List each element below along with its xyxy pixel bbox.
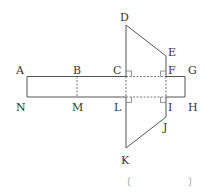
label-C: C <box>113 64 121 77</box>
label-E: E <box>168 46 176 59</box>
right-angle-mark-F <box>161 71 167 77</box>
lower-trapezoid <box>126 97 166 148</box>
right-angle-mark-C <box>126 71 132 77</box>
upper-trapezoid <box>126 25 166 77</box>
label-A: A <box>15 64 25 77</box>
label-J: J <box>162 121 167 134</box>
answer-bracket-open: 〔 <box>121 177 131 188</box>
prism-net-diagram: A B C D E F G H I J K L M N 〔 〕 <box>0 0 205 192</box>
label-I: I <box>168 101 172 114</box>
label-H: H <box>188 101 198 114</box>
strip-right-segment-F-G-H-I <box>166 77 185 98</box>
label-K: K <box>121 154 130 167</box>
right-angle-mark-L <box>126 97 132 103</box>
label-L: L <box>114 101 122 114</box>
label-N: N <box>16 101 26 114</box>
label-G: G <box>188 64 197 77</box>
label-D: D <box>120 11 129 24</box>
label-B: B <box>73 64 81 77</box>
label-F: F <box>168 64 176 77</box>
label-M: M <box>72 101 83 114</box>
right-angle-mark-I <box>161 97 167 103</box>
answer-bracket-close: 〕 <box>188 177 198 188</box>
